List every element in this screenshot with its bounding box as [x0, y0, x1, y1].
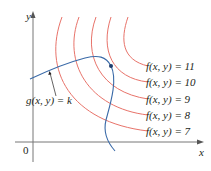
- x-axis-label: x: [198, 146, 204, 158]
- y-axis-label: y: [25, 10, 31, 22]
- level-label-7: f(x, y) = 7: [146, 125, 191, 138]
- x-axis-arrow-icon: [197, 140, 204, 145]
- level-label-10: f(x, y) = 10: [146, 76, 196, 89]
- y-axis-arrow-icon: [31, 11, 36, 18]
- origin-label: 0: [23, 144, 29, 156]
- constraint-label: g(x, y) = k: [26, 94, 73, 107]
- label-pointer: [50, 73, 56, 96]
- level-curves: [56, 17, 148, 131]
- pointer-arrow-icon: [48, 71, 51, 75]
- level-label-8: f(x, y) = 8: [146, 109, 191, 122]
- level-curve-11: [124, 17, 148, 66]
- level-label-11: f(x, y) = 11: [146, 60, 195, 73]
- tangent-point: [109, 64, 113, 68]
- lagrange-diagram: y x 0 g(x, y) = k f(x, y) = 11 f(x, y) =…: [0, 0, 211, 171]
- level-label-9: f(x, y) = 9: [146, 93, 191, 106]
- level-curve-9: [91, 17, 148, 99]
